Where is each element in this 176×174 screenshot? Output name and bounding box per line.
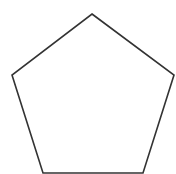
diagram-canvas (0, 0, 176, 174)
pentagon-diagram (0, 0, 176, 174)
pentagon-shape (12, 14, 174, 173)
